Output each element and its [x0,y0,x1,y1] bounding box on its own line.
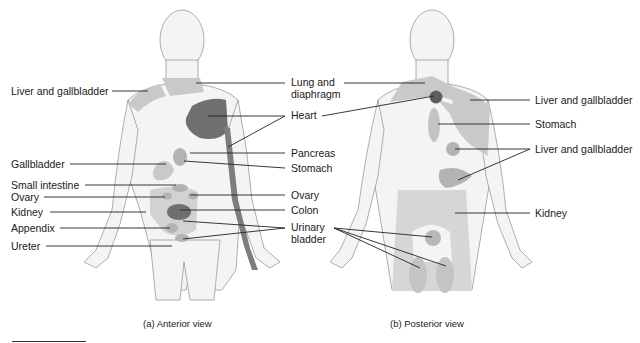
label-ovary-right: Ovary [291,190,319,201]
label-liver-and-gallbladder-posterior-lower: Liver and gallbladder [535,144,632,155]
caption-anterior-view: (a) Anterior view [143,318,212,329]
label-ovary-left: Ovary [11,192,39,203]
label-gallbladder: Gallbladder [11,159,65,170]
label-liver-and-gallbladder-anterior: Liver and gallbladder [11,86,108,97]
label-liver-and-gallbladder-posterior-upper: Liver and gallbladder [535,95,632,106]
label-pancreas: Pancreas [291,148,335,159]
footnote-divider [12,341,86,342]
label-urinary: Urinary [291,222,325,233]
label-stomach-posterior: Stomach [535,119,576,130]
label-appendix: Appendix [11,223,55,234]
label-small-intestine: Small intestine [11,180,79,191]
label-kidney-posterior: Kidney [535,208,567,219]
label-diaphragm: diaphragm [291,89,341,100]
label-kidney-anterior: Kidney [11,207,43,218]
label-bladder: bladder [291,234,326,245]
label-ureter: Ureter [11,241,40,252]
label-heart: Heart [291,110,317,121]
label-lung-and: Lung and [291,77,335,88]
label-colon: Colon [291,205,318,216]
label-stomach-anterior: Stomach [291,163,332,174]
caption-posterior-view: (b) Posterior view [390,318,464,329]
